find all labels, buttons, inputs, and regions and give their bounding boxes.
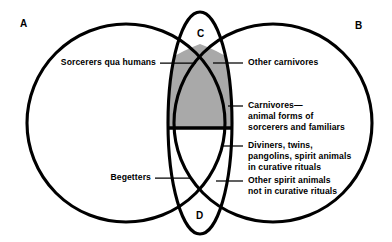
callout-line: Diviners, twins, bbox=[248, 140, 351, 151]
callout-other-spirit-animals: Other spirit animals not in curative rit… bbox=[248, 175, 337, 197]
callout-line: Carnivores— bbox=[248, 100, 345, 111]
venn-diagram-figure: A B C D Sorcerers qua humans Begetters O… bbox=[0, 0, 392, 242]
callout-diviners-twins: Diviners, twins, pangolins, spirit anima… bbox=[248, 140, 351, 174]
callout-line: Sorcerers qua humans bbox=[0, 57, 156, 68]
region-label-c: C bbox=[197, 29, 204, 39]
callout-line: animal forms of bbox=[248, 111, 345, 122]
callout-line: pangolins, spirit animals bbox=[248, 151, 351, 162]
callout-sorcerers-qua-humans: Sorcerers qua humans bbox=[0, 57, 156, 68]
callout-line: Begetters bbox=[0, 172, 151, 183]
region-label-d: D bbox=[196, 211, 203, 221]
region-label-b: B bbox=[355, 21, 362, 31]
callout-line: sorcerers and familiars bbox=[248, 122, 345, 133]
callout-line: Other spirit animals bbox=[248, 175, 337, 186]
callout-line: in curative rituals bbox=[248, 162, 351, 173]
callout-other-carnivores: Other carnivores bbox=[248, 57, 318, 68]
callout-begetters: Begetters bbox=[0, 172, 151, 183]
callout-line: not in curative rituals bbox=[248, 186, 337, 197]
callout-line: Other carnivores bbox=[248, 57, 318, 68]
region-label-a: A bbox=[20, 19, 27, 29]
callout-carnivores-animal-forms: Carnivores— animal forms of sorcerers an… bbox=[248, 100, 345, 134]
